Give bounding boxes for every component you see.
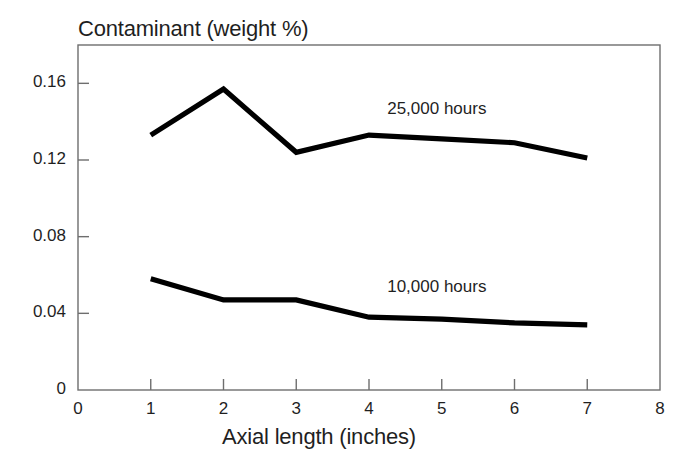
x-tick-label: 2 bbox=[204, 399, 244, 419]
x-tick-label: 4 bbox=[349, 399, 389, 419]
x-tick-label: 5 bbox=[422, 399, 462, 419]
series-line bbox=[151, 89, 588, 158]
data-series-lines bbox=[151, 89, 588, 325]
x-tick-label: 0 bbox=[58, 399, 98, 419]
x-tick-label: 6 bbox=[495, 399, 535, 419]
series-label: 25,000 hours bbox=[387, 99, 486, 119]
plot-area bbox=[0, 0, 694, 459]
x-tick-label: 3 bbox=[276, 399, 316, 419]
series-line bbox=[151, 279, 588, 325]
x-tick-label: 1 bbox=[131, 399, 171, 419]
axis-ticks bbox=[78, 83, 587, 390]
contaminant-line-chart: Contaminant (weight %) 00.040.080.120.16… bbox=[0, 0, 694, 459]
y-tick-label: 0.08 bbox=[6, 226, 66, 246]
x-tick-label: 8 bbox=[640, 399, 680, 419]
y-tick-label: 0.16 bbox=[6, 72, 66, 92]
y-tick-label: 0 bbox=[6, 379, 66, 399]
x-tick-label: 7 bbox=[567, 399, 607, 419]
y-tick-label: 0.04 bbox=[6, 302, 66, 322]
x-axis-title: Axial length (inches) bbox=[0, 424, 694, 450]
y-tick-label: 0.12 bbox=[6, 149, 66, 169]
axes-frame bbox=[78, 45, 660, 390]
x-axis-title-text: Axial length (inches) bbox=[222, 424, 416, 449]
series-label: 10,000 hours bbox=[387, 277, 486, 297]
